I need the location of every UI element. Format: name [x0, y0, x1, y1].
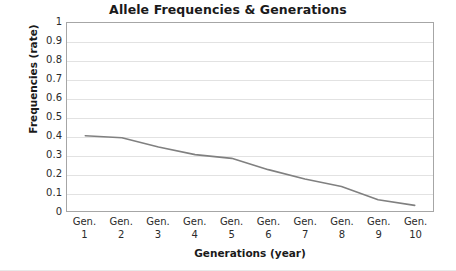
y-axis-tick-label: 0.8 — [10, 55, 62, 65]
x-axis-tick-labels: Gen.1Gen.2Gen.3Gen.4Gen.5Gen.6Gen.7Gen.8… — [66, 215, 434, 249]
plot-area — [66, 22, 434, 212]
y-axis-tick-label: 0 — [10, 207, 62, 217]
chart-container: Allele Frequencies & Generations Frequen… — [0, 0, 456, 271]
y-axis-tick-label: 0.6 — [10, 93, 62, 103]
y-axis-tick-label: 0.4 — [10, 131, 62, 141]
y-axis-tick-label: 0.1 — [10, 188, 62, 198]
y-axis-tick-label: 0.9 — [10, 36, 62, 46]
y-axis-tick-labels: 10.90.80.70.60.50.40.30.20.10 — [4, 0, 62, 271]
x-axis-tick-label: Gen.10 — [393, 215, 439, 241]
y-axis-tick-label: 0.2 — [10, 169, 62, 179]
series-line-allele-frequency — [67, 23, 433, 211]
x-axis-title: Generations (year) — [66, 247, 434, 259]
y-axis-tick-label: 0.7 — [10, 74, 62, 84]
y-axis-tick-label: 0.5 — [10, 112, 62, 122]
chart-title: Allele Frequencies & Generations — [0, 1, 456, 18]
y-axis-tick-label: 1 — [10, 17, 62, 27]
y-axis-tick-label: 0.3 — [10, 150, 62, 160]
